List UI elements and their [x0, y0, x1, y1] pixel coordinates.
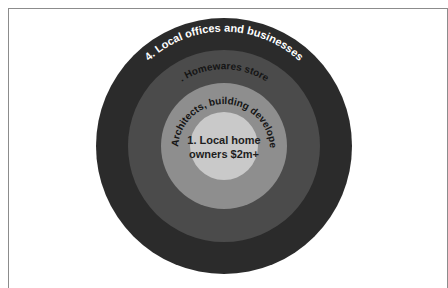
ring-1-label-line2: owners $2m+ — [189, 148, 259, 160]
ring-1-local-home-owners — [190, 112, 258, 180]
ring-1-label-line1: 1. Local home — [187, 134, 260, 146]
